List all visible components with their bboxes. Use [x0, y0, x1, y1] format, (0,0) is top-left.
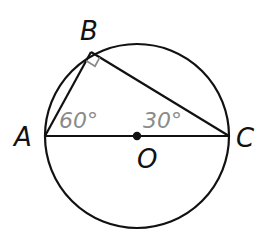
label-o: O: [137, 144, 157, 174]
angle-label-a: 60°: [59, 108, 98, 133]
circle-diagram: B A C O 60° 30°: [0, 0, 273, 241]
label-a: A: [12, 122, 32, 152]
label-c: C: [236, 123, 255, 153]
label-b: B: [80, 16, 98, 46]
angle-label-c: 30°: [143, 108, 182, 133]
center-point-o: [133, 132, 141, 140]
